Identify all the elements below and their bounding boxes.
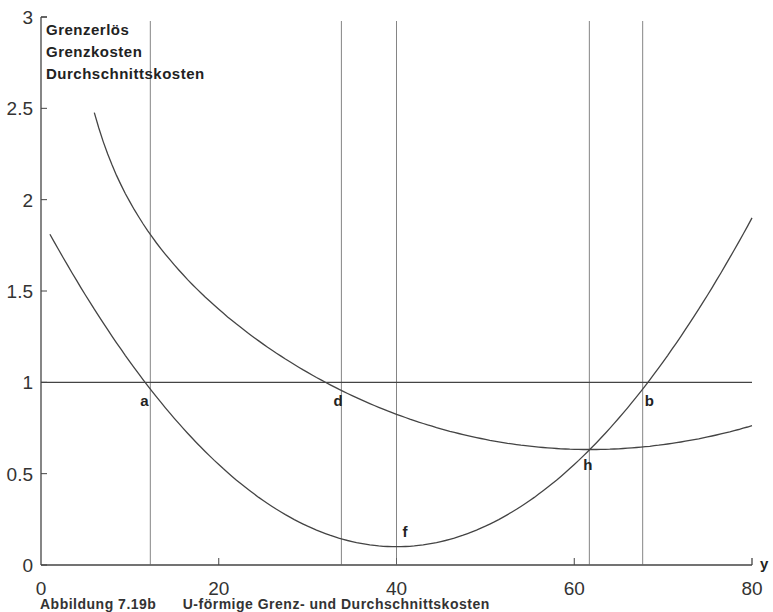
legend-entry: Durchschnittskosten [46, 65, 205, 82]
point-label-d: d [333, 392, 342, 409]
y-tick-label: 0.5 [7, 464, 33, 485]
point-label-b: b [645, 392, 654, 409]
x-tick-label: 60 [564, 578, 585, 599]
y-tick-label: 1 [22, 372, 33, 393]
y-tick-label: 2.5 [7, 98, 33, 119]
figure-caption: Abbildung 7.19b U-förmige Grenz- und Dur… [40, 596, 490, 612]
point-label-a: a [140, 392, 149, 409]
point-label-h: h [583, 456, 592, 473]
y-tick-label: 0 [22, 555, 33, 576]
legend-entry: Grenzerlös [46, 21, 129, 38]
x-tick-label: 80 [741, 578, 762, 599]
y-tick-label: 1.5 [7, 281, 33, 302]
y-tick-label: 3 [22, 7, 33, 28]
x-axis-label: y [760, 555, 769, 572]
point-label-f: f [403, 523, 409, 540]
y-tick-label: 2 [22, 190, 33, 211]
legend-entry: Grenzkosten [46, 43, 142, 60]
